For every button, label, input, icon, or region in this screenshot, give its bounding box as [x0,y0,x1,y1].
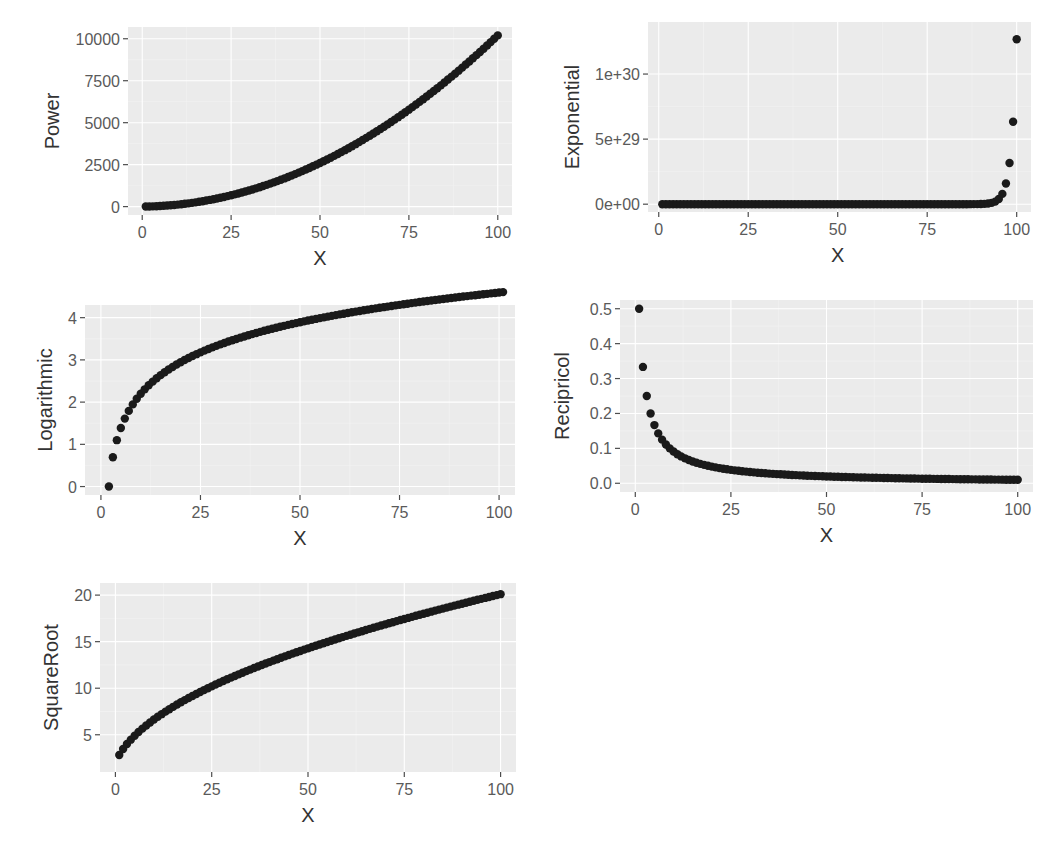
y-tick-label: 2500 [84,157,120,174]
data-point [635,305,643,313]
x-axis-title: X [313,247,326,269]
x-tick-label: 100 [1003,221,1030,238]
y-tick-label: 0.2 [590,405,612,422]
y-tick-label: 0 [68,479,77,496]
x-tick-label: 25 [739,221,757,238]
data-point [1009,118,1017,126]
x-tick-label: 50 [291,504,309,521]
x-tick-label: 25 [203,781,221,798]
x-tick-label: 75 [391,504,409,521]
data-point [646,409,654,417]
data-point [496,590,504,598]
x-tick-label: 50 [818,501,836,518]
x-tick-label: 25 [192,504,210,521]
data-point [499,288,507,296]
x-tick-label: 100 [1004,501,1031,518]
y-tick-label: 5000 [84,115,120,132]
data-point [998,190,1006,198]
data-point [1014,476,1022,484]
y-tick-label: 1e+30 [595,66,640,83]
y-tick-label: 5 [83,727,92,744]
y-tick-label: 0.4 [590,336,612,353]
x-tick-label: 0 [654,221,663,238]
y-tick-label: 0.3 [590,371,612,388]
chart-panel-power: 0255075100025005000750010000XPower [41,27,512,269]
x-tick-label: 100 [484,224,511,241]
y-tick-label: 10000 [76,31,121,48]
x-axis-title: X [831,244,844,266]
y-tick-label: 0e+00 [595,196,640,213]
data-point [113,436,121,444]
y-tick-label: 3 [68,352,77,369]
chart-panel-reciprocal: 02550751000.00.10.20.30.40.5XRecipricol [551,300,1033,546]
x-axis-title: X [301,804,314,826]
figure-canvas: 0255075100025005000750010000XPower 02550… [0,0,1054,867]
x-tick-label: 50 [299,781,317,798]
data-point [105,482,113,490]
chart-panel-squareroot: 02550751005101520XSquareRoot [40,583,516,826]
x-tick-label: 75 [400,224,418,241]
data-point [1002,179,1010,187]
y-tick-label: 0 [111,199,120,216]
chart-panel-logarithmic: 025507510001234XLogarithmic [34,288,515,549]
x-tick-label: 0 [111,781,120,798]
y-tick-label: 2 [68,394,77,411]
y-tick-label: 0.5 [590,301,612,318]
y-tick-label: 0.0 [590,475,612,492]
y-axis-title: Exponential [561,65,583,170]
y-tick-label: 7500 [84,73,120,90]
x-tick-label: 0 [96,504,105,521]
y-tick-label: 4 [68,310,77,327]
x-tick-label: 0 [138,224,147,241]
x-tick-label: 0 [631,501,640,518]
x-tick-label: 25 [722,501,740,518]
data-point [639,363,647,371]
x-axis-title: X [293,527,306,549]
data-point [1005,159,1013,167]
x-axis-title: X [820,524,833,546]
data-point [121,414,129,422]
x-tick-label: 50 [311,224,329,241]
y-axis-title: SquareRoot [40,624,62,731]
data-point [643,392,651,400]
data-point [494,31,502,39]
y-tick-label: 0.1 [590,440,612,457]
x-tick-label: 75 [918,221,936,238]
plot-background [648,22,1031,212]
x-tick-label: 100 [486,504,513,521]
y-axis-title: Recipricol [551,352,573,440]
y-axis-title: Power [41,92,63,149]
x-tick-label: 50 [829,221,847,238]
data-point [1012,35,1020,43]
y-tick-label: 1 [68,436,77,453]
y-tick-label: 15 [74,634,92,651]
chart-panel-exponential: 02550751000e+005e+291e+30XExponential [561,22,1031,266]
y-axis-title: Logarithmic [34,348,56,451]
x-tick-label: 75 [913,501,931,518]
y-tick-label: 5e+29 [595,131,640,148]
data-point [117,424,125,432]
y-tick-label: 20 [74,587,92,604]
y-tick-label: 10 [74,680,92,697]
data-point [109,453,117,461]
data-point [650,421,658,429]
x-tick-label: 100 [487,781,514,798]
x-tick-label: 75 [395,781,413,798]
x-tick-label: 25 [222,224,240,241]
